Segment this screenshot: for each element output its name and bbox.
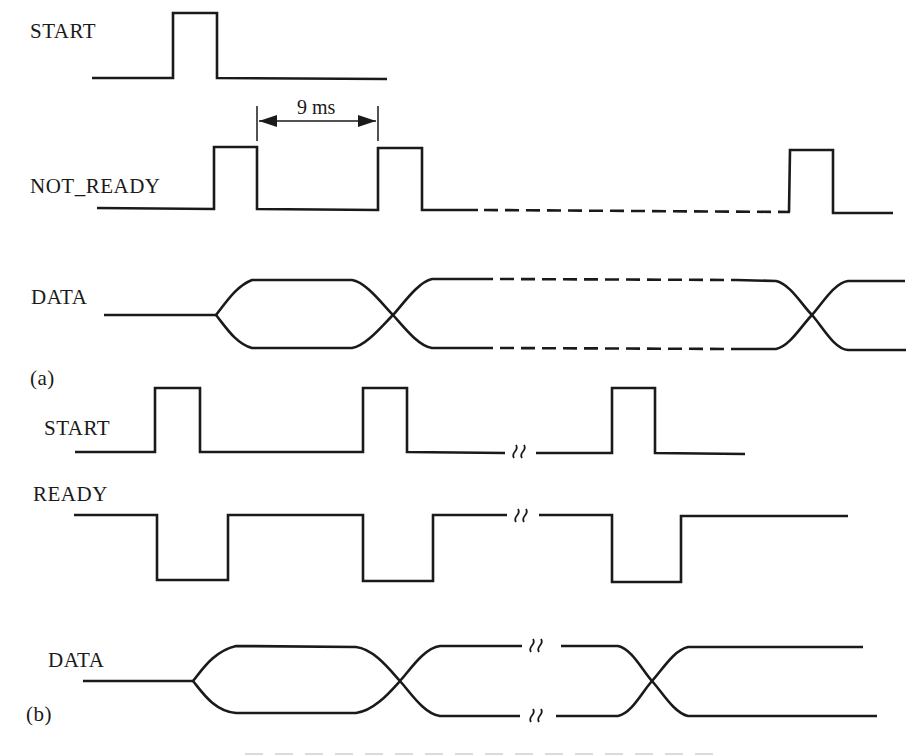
break-symbol-data-bottom-b [530,709,542,722]
waveform-data-a [104,279,906,350]
break-symbol-start-b [513,445,525,458]
waveform-not-ready-a [97,147,893,213]
break-symbol-data-top-b [530,639,542,652]
waveform-start-b [75,388,745,458]
figure-caption-clipped [245,750,715,755]
waveform-ready-b [74,509,848,582]
waveform-start-a [92,13,387,79]
timing-diagram-figure: START NOT_READY DATA (a) 9 ms START READ… [0,0,921,755]
waveform-data-b [83,639,877,722]
break-symbol-ready-b [515,509,527,522]
waveforms-svg [0,0,921,755]
dimension-9ms [257,106,378,141]
